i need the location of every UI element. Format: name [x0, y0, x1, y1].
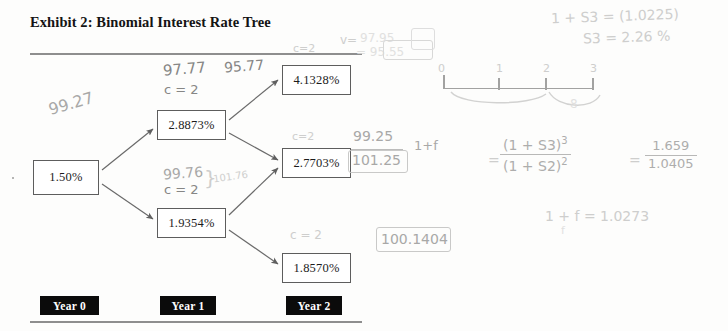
- handwriting-low-value-box: [376, 227, 451, 252]
- handwriting-formula-equals-2: =: [629, 152, 641, 168]
- handwriting-timeline-tick-0: [443, 75, 445, 89]
- handwriting-spot-line-2: S3 = 2.26 %: [583, 27, 671, 46]
- handwriting-down-brace: }: [204, 166, 217, 190]
- handwriting-timeline-tick-3: [592, 78, 594, 90]
- handwriting-result-numerator: 1.659: [645, 139, 697, 156]
- node-year1-up: 2.8873%: [157, 110, 226, 140]
- handwriting-result-line: 1 + f = 1.0273: [545, 208, 649, 224]
- handwriting-tick-label-3: 3: [590, 62, 597, 75]
- handwriting-formula-denominator: (1 + S2)2: [500, 155, 571, 174]
- handwriting-formula-numerator: (1 + S3)3: [500, 135, 571, 155]
- handwriting-up-value-1: 97.77: [162, 58, 206, 80]
- handwriting-up-coupon: c = 2: [164, 82, 199, 97]
- handwriting-mid-coupon: c=2: [292, 130, 314, 143]
- handwriting-left-value: 99.27: [46, 88, 95, 119]
- handwriting-formula-equals-1: =: [488, 152, 500, 168]
- year-label-2: Year 2: [286, 296, 342, 315]
- handwriting-low-coupon: c = 2: [290, 228, 322, 242]
- handwriting-top-coupon: c=2: [293, 42, 315, 55]
- handwriting-timeline-tick-2: [545, 78, 547, 90]
- handwriting-result-denominator: 1.0405: [645, 156, 697, 172]
- stray-mark: [12, 177, 14, 179]
- year-label-0: Year 0: [40, 296, 99, 315]
- handwriting-timeline-axis: [443, 88, 593, 89]
- divider-bottom: [30, 321, 362, 323]
- handwriting-mid-value: 99.25: [353, 128, 393, 144]
- node-year2-up: 4.1328%: [282, 65, 351, 95]
- page-title: Exhibit 2: Binomial Interest Rate Tree: [30, 14, 271, 31]
- handwriting-timeline-tick-1: [498, 78, 500, 90]
- handwriting-brace-label: 8: [570, 97, 578, 111]
- handwriting-down-value: 99.76: [162, 164, 203, 183]
- handwriting-tick-label-1: 1: [496, 62, 503, 75]
- handwriting-top-v-label: v=: [340, 33, 357, 47]
- handwriting-up-value-2: 95.77: [223, 57, 264, 76]
- handwriting-spot-line-1: 1 + S3 = (1.0225): [551, 6, 679, 26]
- node-year2-down: 1.8570%: [282, 253, 351, 283]
- handwriting-down-value-right: 101.76: [212, 169, 248, 185]
- handwriting-formula-fraction: (1 + S3)3 (1 + S2)2: [500, 135, 571, 174]
- handwriting-down-coupon: c = 2: [164, 182, 199, 197]
- handwriting-mid-one-plus-f: 1+f: [414, 138, 438, 153]
- handwriting-result-sub: f: [561, 224, 565, 237]
- node-year0: 1.50%: [33, 160, 99, 195]
- handwriting-tick-label-2: 2: [543, 62, 550, 75]
- handwriting-side-box: [411, 28, 435, 50]
- node-year1-down: 1.9354%: [157, 208, 226, 238]
- handwriting-formula-result: 1.659 1.0405: [645, 139, 697, 172]
- exhibit-page: Exhibit 2: Binomial Interest Rate Tree 1…: [0, 0, 728, 331]
- handwriting-mid-denominator-box: [348, 150, 408, 173]
- node-year2-mid: 2.7703%: [282, 148, 351, 178]
- handwriting-tick-label-0: 0: [438, 62, 445, 75]
- year-label-1: Year 1: [160, 296, 216, 315]
